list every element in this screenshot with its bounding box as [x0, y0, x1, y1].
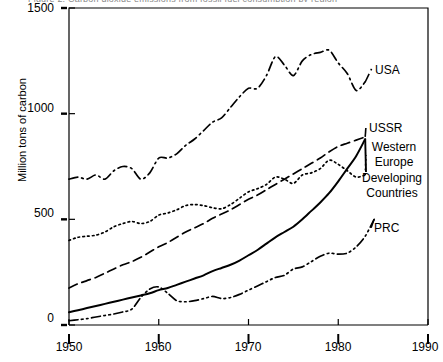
leader-line-usa — [365, 68, 372, 82]
axis-tick-marks — [61, 8, 428, 344]
leader-line-ussr — [365, 126, 366, 137]
label-leader-lines — [365, 68, 374, 228]
series-lines-group — [69, 50, 374, 321]
series-line-developing-countries — [69, 139, 365, 312]
series-line-prc — [69, 219, 374, 320]
series-line-western-europe — [69, 160, 365, 240]
series-line-ussr — [69, 137, 365, 288]
series-line-usa — [69, 50, 365, 179]
leader-line-developing-countries — [365, 139, 366, 172]
